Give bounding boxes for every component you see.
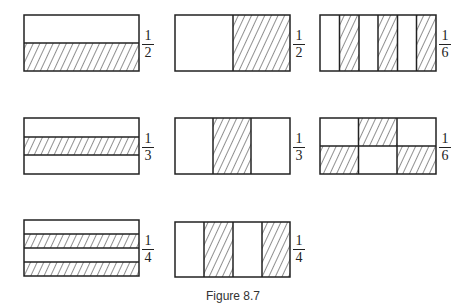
fraction-label-sixth-vertical-strips: 1 6 (438, 29, 452, 60)
panel-sixth-vertical-strips (320, 15, 436, 71)
fraction-label-half-vertical: 1 2 (292, 29, 306, 60)
numerator: 1 (141, 132, 155, 146)
fraction-label-quarter-horizontal: 1 4 (141, 234, 155, 265)
numerator: 1 (438, 29, 452, 43)
numerator: 1 (438, 132, 452, 146)
fraction-label-third-vertical: 1 3 (292, 132, 306, 163)
numerator: 1 (141, 234, 155, 248)
denominator: 4 (141, 251, 155, 265)
denominator: 3 (141, 149, 155, 163)
denominator: 2 (292, 46, 306, 60)
fraction-label-third-horizontal: 1 3 (141, 132, 155, 163)
panel-third-horizontal (24, 118, 139, 174)
denominator: 6 (438, 149, 452, 163)
fraction-label-quarter-vertical: 1 4 (292, 234, 306, 265)
panel-quarter-vertical (175, 222, 290, 277)
panel-sixth-grid (320, 118, 436, 174)
numerator: 1 (292, 132, 306, 146)
fraction-diagram (0, 0, 466, 308)
denominator: 4 (292, 251, 306, 265)
denominator: 3 (292, 149, 306, 163)
numerator: 1 (141, 29, 155, 43)
fraction-label-sixth-grid: 1 6 (438, 132, 452, 163)
figure-caption: Figure 8.7 (0, 289, 466, 303)
numerator: 1 (292, 29, 306, 43)
panel-quarter-horizontal (24, 220, 139, 276)
denominator: 2 (141, 46, 155, 60)
panel-third-vertical (175, 118, 290, 174)
panel-half-vertical (175, 15, 290, 71)
panel-half-horizontal (24, 15, 139, 71)
fraction-label-half-horizontal: 1 2 (141, 29, 155, 60)
numerator: 1 (292, 234, 306, 248)
denominator: 6 (438, 46, 452, 60)
